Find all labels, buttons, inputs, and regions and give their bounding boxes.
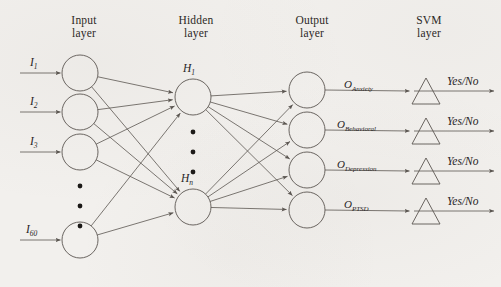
connection-line	[92, 87, 180, 192]
svm-verdict-label-3: Yes/No	[447, 155, 479, 167]
connection-line	[94, 124, 178, 194]
input-label-3: I3	[30, 135, 38, 150]
output-layer-header-line1: Output	[272, 14, 352, 27]
input-layer-header: Inputlayer	[44, 14, 124, 40]
output-label-ptsd: OPTSD	[344, 198, 369, 213]
output-label-behavioral-subscript: Behavioral	[345, 125, 376, 133]
input-label-2: I2	[30, 95, 38, 110]
output-label-ptsd-subscript: PTSD	[352, 205, 369, 213]
connection-line	[211, 207, 287, 209]
svm-layer-header-line1: SVM	[389, 14, 469, 27]
hidden-label-1: H1	[183, 62, 195, 77]
connection-line	[96, 160, 174, 198]
input-label-1: I1	[30, 56, 38, 71]
hidden-label-2: Hn	[181, 172, 193, 187]
ellipsis-dot	[78, 184, 83, 189]
svm-verdict-label-1: Yes/No	[447, 75, 479, 87]
connection-line	[91, 113, 180, 226]
network-diagram: InputlayerHiddenlayerOutputlayerSVMlayer…	[0, 0, 501, 287]
connection-line	[208, 107, 290, 159]
hidden-layer-header-line2: layer	[156, 27, 236, 40]
output-layer-header-line2: layer	[272, 27, 352, 40]
input-label-3-subscript: 3	[34, 141, 38, 150]
hidden-layer-header-line1: Hidden	[156, 14, 236, 27]
svm-verdict-label-4: Yes/No	[447, 195, 479, 207]
output-label-ptsd-base: O	[344, 198, 352, 210]
input-label-4-subscript: 60	[30, 229, 38, 238]
hidden-node-2	[175, 189, 211, 225]
output-label-anxiety-base: O	[344, 78, 352, 90]
connection-line	[211, 91, 287, 96]
input-node-2	[62, 94, 98, 130]
output-node-2	[289, 112, 325, 148]
diagram-canvas	[0, 0, 501, 287]
output-label-anxiety-subscript: Anxiety	[352, 85, 373, 93]
output-label-anxiety: OAnxiety	[344, 78, 373, 93]
input-label-1-subscript: 1	[34, 62, 38, 71]
connection-line	[210, 102, 287, 124]
output-node-1	[289, 72, 325, 108]
ellipsis-dot	[78, 224, 83, 229]
hidden-node-1	[175, 79, 211, 115]
connection-line	[98, 77, 173, 93]
layer-nodes	[62, 55, 440, 258]
output-label-depression-base: O	[337, 158, 345, 170]
output-label-depression-subscript: Depression	[345, 165, 377, 173]
connection-line	[210, 176, 287, 201]
hidden-label-1-subscript: 1	[191, 68, 195, 77]
svm-layer-header: SVMlayer	[389, 14, 469, 40]
output-node-4	[289, 192, 325, 228]
input-node-3	[62, 134, 98, 170]
ellipsis-dots	[78, 130, 196, 229]
output-label-depression: ODepression	[337, 158, 377, 173]
ellipsis-dot	[78, 204, 83, 209]
input-layer-header-line2: layer	[44, 27, 124, 40]
connection-line	[98, 100, 173, 110]
svm-verdict-label-2: Yes/No	[447, 115, 479, 127]
ellipsis-dot	[191, 130, 196, 135]
output-layer-header: Outputlayer	[272, 14, 352, 40]
output-label-behavioral-base: O	[337, 118, 345, 130]
ellipsis-dot	[191, 150, 196, 155]
hidden-label-2-subscript: n	[189, 178, 193, 187]
connection-line	[206, 105, 293, 194]
hidden-layer-header: Hiddenlayer	[156, 14, 236, 40]
output-node-3	[289, 152, 325, 188]
input-label-2-subscript: 2	[34, 101, 38, 110]
output-label-behavioral: OBehavioral	[337, 118, 376, 133]
input-node-1	[62, 55, 98, 91]
input-label-4: I60	[26, 223, 37, 238]
input-layer-header-line1: Input	[44, 14, 124, 27]
svm-layer-header-line2: layer	[389, 27, 469, 40]
connection-line	[97, 213, 173, 235]
